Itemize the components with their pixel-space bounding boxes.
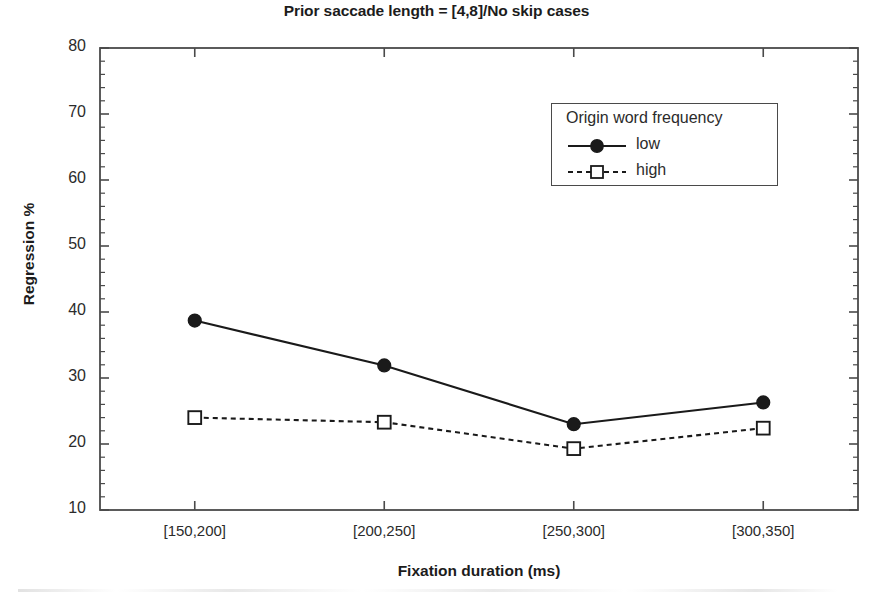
data-point-high-3[interactable] bbox=[757, 422, 770, 435]
y-tick-label: 80 bbox=[40, 37, 86, 55]
y-tick-label: 20 bbox=[40, 433, 86, 451]
series-line-high bbox=[195, 418, 764, 449]
y-axis-title: Regression % bbox=[20, 154, 38, 354]
y-tick-label: 30 bbox=[40, 367, 86, 385]
data-point-low-1[interactable] bbox=[378, 359, 391, 372]
x-tick-label: [300,350] bbox=[698, 522, 828, 539]
data-point-low-2[interactable] bbox=[567, 418, 580, 431]
legend-title: Origin word frequency bbox=[566, 109, 723, 127]
data-point-high-1[interactable] bbox=[378, 416, 391, 429]
data-point-high-0[interactable] bbox=[188, 411, 201, 424]
y-tick-label: 40 bbox=[40, 301, 86, 319]
legend: Origin word frequency low high bbox=[551, 103, 778, 186]
legend-swatch-open-square-dashed bbox=[566, 159, 628, 185]
legend-label-low: low bbox=[636, 135, 660, 153]
x-tick-label: [250,300] bbox=[509, 522, 639, 539]
legend-swatch-filled-circle-solid bbox=[566, 133, 628, 159]
series-layer bbox=[188, 314, 769, 455]
chart-figure: Prior saccade length = [4,8]/No skip cas… bbox=[0, 0, 873, 595]
y-tick-label: 10 bbox=[40, 499, 86, 517]
y-tick-label: 70 bbox=[40, 103, 86, 121]
y-tick-label: 50 bbox=[40, 235, 86, 253]
scan-artifact bbox=[18, 589, 838, 592]
x-tick-label: [200,250] bbox=[319, 522, 449, 539]
data-point-low-3[interactable] bbox=[757, 396, 770, 409]
data-point-low-0[interactable] bbox=[188, 314, 201, 327]
y-tick-label: 60 bbox=[40, 169, 86, 187]
x-axis-title: Fixation duration (ms) bbox=[100, 562, 858, 580]
plot-area bbox=[0, 0, 873, 595]
data-point-high-2[interactable] bbox=[567, 442, 580, 455]
series-line-low bbox=[195, 321, 764, 425]
x-tick-label: [150,200] bbox=[130, 522, 260, 539]
legend-label-high: high bbox=[636, 161, 666, 179]
